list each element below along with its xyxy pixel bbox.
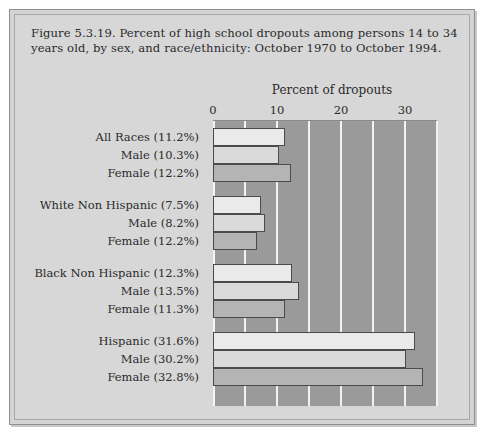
category-label-0-male: Male (10.3%) xyxy=(15,146,199,164)
category-label-2-total: Black Non Hispanic (12.3%) xyxy=(15,264,199,282)
bar-2-male xyxy=(213,282,299,300)
x-axis-tick-labels: 0102030 xyxy=(15,103,481,119)
bar-0-female xyxy=(213,164,291,182)
category-label-2-male: Male (13.5%) xyxy=(15,282,199,300)
category-label-1-female: Female (12.2%) xyxy=(15,232,199,250)
bar-3-male xyxy=(213,350,406,368)
category-labels: All Races (11.2%)Male (10.3%)Female (12.… xyxy=(15,120,207,405)
category-label-1-male: Male (8.2%) xyxy=(15,214,199,232)
bar-1-female xyxy=(213,232,257,250)
category-label-3-male: Male (30.2%) xyxy=(15,350,199,368)
bar-1-male xyxy=(213,214,265,232)
bar-3-female xyxy=(213,368,423,386)
figure-frame-outer: Figure 5.3.19. Percent of high school dr… xyxy=(9,9,475,425)
bar-1-total xyxy=(213,196,261,214)
bar-0-total xyxy=(213,128,285,146)
bars-layer xyxy=(213,120,449,405)
bar-2-total xyxy=(213,264,292,282)
category-label-0-total: All Races (11.2%) xyxy=(15,128,199,146)
figure-caption: Figure 5.3.19. Percent of high school dr… xyxy=(31,26,467,55)
bar-0-male xyxy=(213,146,279,164)
category-label-1-total: White Non Hispanic (7.5%) xyxy=(15,196,199,214)
figure-frame-inner: Figure 5.3.19. Percent of high school dr… xyxy=(14,14,470,420)
x-tick-label-0: 0 xyxy=(209,103,216,117)
figure-page: Figure 5.3.19. Percent of high school dr… xyxy=(0,0,489,438)
x-tick-label-20: 20 xyxy=(334,103,349,117)
category-label-0-female: Female (12.2%) xyxy=(15,164,199,182)
bar-3-total xyxy=(213,332,415,350)
category-label-3-total: Hispanic (31.6%) xyxy=(15,332,199,350)
x-tick-label-30: 30 xyxy=(398,103,413,117)
category-label-2-female: Female (11.3%) xyxy=(15,300,199,318)
x-axis-title: Percent of dropouts xyxy=(212,83,452,97)
x-tick-label-10: 10 xyxy=(270,103,285,117)
bar-2-female xyxy=(213,300,285,318)
category-label-3-female: Female (32.8%) xyxy=(15,368,199,386)
